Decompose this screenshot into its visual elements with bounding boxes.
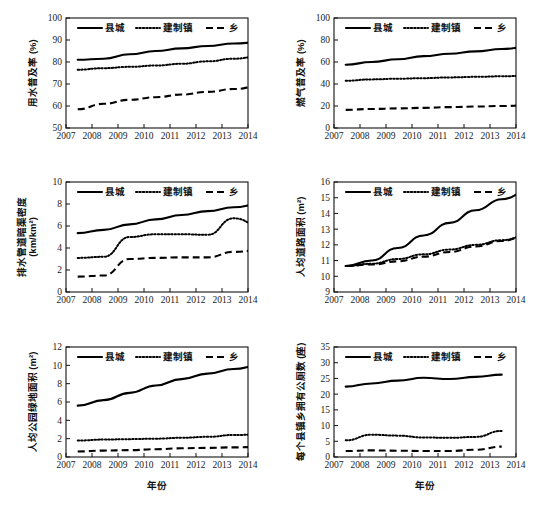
y-tick-label: 2 bbox=[57, 434, 62, 444]
x-tick-label: 2012 bbox=[187, 295, 206, 305]
series-line-县城 bbox=[78, 365, 260, 405]
x-tick-label: 2009 bbox=[109, 131, 128, 141]
legend-label-县城: 县城 bbox=[373, 22, 393, 33]
legend-label-乡: 乡 bbox=[497, 351, 507, 362]
x-tick-label: 2007 bbox=[325, 131, 344, 141]
x-tick-label: 2008 bbox=[351, 131, 370, 141]
x-tick-label: 2009 bbox=[377, 460, 396, 470]
legend-label-乡: 乡 bbox=[229, 22, 239, 33]
series-line-县城 bbox=[346, 375, 502, 387]
y-tick-label: 5 bbox=[325, 437, 330, 447]
series-line-建制镇 bbox=[78, 218, 260, 258]
x-tick-label: 2014 bbox=[507, 295, 526, 305]
y-tick-label: 12 bbox=[321, 240, 331, 250]
plot-frame bbox=[66, 18, 248, 128]
x-tick-label: 2014 bbox=[507, 131, 526, 141]
x-tick-label: 2007 bbox=[57, 460, 76, 470]
legend-label-建制镇: 建制镇 bbox=[430, 351, 461, 362]
plot-frame bbox=[334, 18, 516, 128]
x-tick-label: 2008 bbox=[83, 460, 102, 470]
y-tick-label: 20 bbox=[321, 390, 331, 400]
series-line-乡 bbox=[346, 105, 528, 109]
y-tick-label: 16 bbox=[321, 177, 331, 187]
x-tick-label: 2011 bbox=[161, 295, 180, 305]
x-axis-label: 年份 bbox=[147, 480, 167, 491]
plot-frame bbox=[334, 347, 516, 457]
y-tick-label: 8 bbox=[57, 379, 62, 389]
y-tick-label: 11 bbox=[321, 256, 330, 266]
series-line-乡 bbox=[78, 250, 260, 276]
x-tick-label: 2013 bbox=[481, 131, 500, 141]
legend-label-乡: 乡 bbox=[229, 351, 239, 362]
y-axis-label: 用水普及率 (%) bbox=[27, 39, 38, 107]
legend-label-县城: 县城 bbox=[373, 186, 393, 197]
y-tick-label: 60 bbox=[321, 57, 331, 67]
x-tick-label: 2007 bbox=[57, 295, 76, 305]
y-axis-label: 人均公园绿地面积 (m²) bbox=[27, 352, 38, 453]
x-tick-label: 2008 bbox=[83, 295, 102, 305]
y-tick-label: 6 bbox=[57, 397, 62, 407]
legend-label-建制镇: 建制镇 bbox=[430, 22, 461, 33]
y-tick-label: 80 bbox=[321, 35, 331, 45]
y-tick-label: 100 bbox=[48, 13, 63, 23]
chart-panel-e: 0246810122007200820092010201120122013201… bbox=[0, 333, 268, 508]
y-tick-label: 30 bbox=[321, 358, 331, 368]
x-tick-label: 2014 bbox=[239, 131, 258, 141]
y-tick-label: 80 bbox=[53, 57, 63, 67]
x-tick-label: 2007 bbox=[325, 460, 344, 470]
series-line-乡 bbox=[78, 86, 260, 109]
legend-label-县城: 县城 bbox=[373, 351, 393, 362]
y-tick-label: 10 bbox=[321, 421, 331, 431]
chart-panel-b: 0204060801002007200820092010201120122013… bbox=[268, 0, 536, 168]
y-tick-label: 14 bbox=[321, 209, 331, 219]
y-tick-label: 90 bbox=[53, 35, 63, 45]
x-tick-label: 2011 bbox=[161, 131, 180, 141]
chart-panel-a: 5060708090100200720082009201020112012201… bbox=[0, 0, 268, 168]
y-axis-label: 人均道路面积 (m²) bbox=[295, 197, 306, 278]
y-tick-label: 10 bbox=[53, 361, 63, 371]
y-tick-label: 100 bbox=[316, 13, 331, 23]
series-line-乡 bbox=[346, 447, 502, 451]
series-line-建制镇 bbox=[346, 431, 502, 440]
figure-panel-grid: 5060708090100200720082009201020112012201… bbox=[0, 0, 536, 508]
x-tick-label: 2012 bbox=[187, 131, 206, 141]
y-tick-label: 4 bbox=[57, 416, 62, 426]
y-axis-label: 排水管道暗渠密度 bbox=[16, 197, 27, 277]
x-tick-label: 2009 bbox=[109, 295, 128, 305]
y-axis-label: 燃气普及率 (%) bbox=[295, 39, 306, 106]
y-axis-label: (km/km²) bbox=[27, 217, 38, 257]
y-tick-label: 10 bbox=[53, 177, 63, 187]
series-line-建制镇 bbox=[346, 76, 528, 81]
x-tick-label: 2012 bbox=[455, 295, 474, 305]
legend-label-建制镇: 建制镇 bbox=[430, 186, 461, 197]
legend-label-乡: 乡 bbox=[497, 22, 507, 33]
x-tick-label: 2010 bbox=[135, 295, 154, 305]
y-tick-label: 6 bbox=[57, 221, 62, 231]
y-tick-label: 60 bbox=[53, 101, 63, 111]
x-tick-label: 2011 bbox=[429, 460, 448, 470]
x-tick-label: 2011 bbox=[429, 295, 448, 305]
legend-label-建制镇: 建制镇 bbox=[162, 351, 193, 362]
x-tick-label: 2014 bbox=[507, 460, 526, 470]
y-tick-label: 12 bbox=[53, 342, 63, 352]
legend-label-建制镇: 建制镇 bbox=[162, 186, 193, 197]
plot-frame bbox=[334, 182, 516, 292]
x-tick-label: 2008 bbox=[351, 295, 370, 305]
x-axis-label: 年份 bbox=[415, 480, 435, 491]
legend-label-乡: 乡 bbox=[229, 186, 239, 197]
x-tick-label: 2009 bbox=[377, 295, 396, 305]
y-tick-label: 70 bbox=[53, 79, 63, 89]
chart-panel-c: 024681020072008200920102011201220132014排… bbox=[0, 168, 268, 333]
legend-label-县城: 县城 bbox=[105, 186, 125, 197]
x-tick-label: 2014 bbox=[239, 460, 258, 470]
x-tick-label: 2013 bbox=[481, 460, 500, 470]
legend-label-建制镇: 建制镇 bbox=[162, 22, 193, 33]
x-tick-label: 2007 bbox=[325, 295, 344, 305]
y-tick-label: 2 bbox=[57, 265, 62, 275]
x-tick-label: 2009 bbox=[109, 460, 128, 470]
x-tick-label: 2012 bbox=[455, 131, 474, 141]
x-tick-label: 2011 bbox=[429, 131, 448, 141]
x-tick-label: 2008 bbox=[351, 460, 370, 470]
y-tick-label: 25 bbox=[321, 374, 331, 384]
y-tick-label: 4 bbox=[57, 243, 62, 253]
